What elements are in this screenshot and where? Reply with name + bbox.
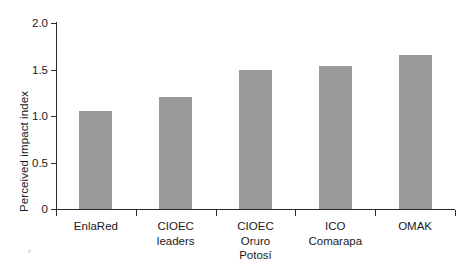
bar[interactable] [239,70,272,209]
x-axis-tick [216,210,217,216]
x-axis-tick [455,210,456,216]
bar[interactable] [319,66,352,209]
plot-area [56,23,454,209]
y-axis-tick-label-wrap: 1.5 [0,64,48,76]
scan-artifact [253,241,256,245]
bar-chart-figure: Perceived impact index 00.51.01.52.0 Enl… [0,0,467,275]
y-axis-tick-label: 2.0 [4,17,48,29]
y-axis-tick-label-wrap: 0 [0,203,48,215]
y-axis-tick-label: 0.5 [4,157,48,169]
scan-artifact [28,249,31,253]
x-axis-line [56,209,455,210]
x-axis-tick [136,210,137,216]
y-axis-tick-label: 1.0 [4,110,48,122]
y-axis-tick-label-wrap: 2.0 [0,17,48,29]
x-axis-tick [295,210,296,216]
bar[interactable] [159,97,192,209]
x-axis-category-label: ICO Comarapa [295,219,375,248]
bar[interactable] [399,55,432,209]
x-axis-tick [375,210,376,216]
x-axis-category-label: EnlaRed [56,219,136,234]
bar[interactable] [79,111,112,209]
y-axis-tick-label-wrap: 0.5 [0,157,48,169]
y-axis-tick-label-wrap: 1.0 [0,110,48,122]
y-axis-tick-label: 0 [4,203,48,215]
x-axis-category-label: OMAK [375,219,455,234]
x-axis-category-label: CIOEC leaders [136,219,216,248]
x-axis-tick [56,210,57,216]
y-axis-tick-label: 1.5 [4,64,48,76]
